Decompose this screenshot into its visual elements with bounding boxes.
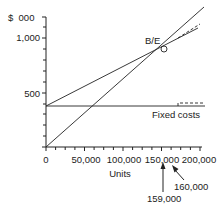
sales-revenue-line bbox=[46, 7, 204, 147]
x-tick-100000: 100,000 bbox=[107, 154, 141, 165]
break-even-chart: $ 000 1,000 500 0 50,000 100,000 150,000… bbox=[0, 0, 221, 212]
total-costs-step-dashed bbox=[178, 24, 200, 38]
annotation-159000: 159,000 bbox=[147, 193, 181, 204]
total-costs-line bbox=[46, 28, 198, 106]
break-even-label: B/E bbox=[145, 35, 160, 46]
x-axis-label: Units bbox=[109, 168, 131, 179]
arrow-159000-icon bbox=[161, 162, 166, 192]
arrow-160000-icon bbox=[172, 165, 184, 180]
y-axis bbox=[42, 17, 46, 147]
break-even-marker bbox=[161, 46, 167, 52]
x-axis bbox=[42, 147, 202, 151]
fixed-costs-label: Fixed costs bbox=[152, 109, 200, 120]
x-tick-50000: 50,000 bbox=[71, 154, 100, 165]
x-tick-0: 0 bbox=[43, 154, 48, 165]
x-tick-150000: 150,000 bbox=[145, 154, 179, 165]
annotation-160000: 160,000 bbox=[174, 181, 208, 192]
y-tick-1000: 1,000 bbox=[16, 32, 40, 43]
x-tick-200000: 200,000 bbox=[182, 154, 216, 165]
y-unit-label: $ 000 bbox=[8, 12, 34, 23]
y-tick-500: 500 bbox=[24, 88, 40, 99]
